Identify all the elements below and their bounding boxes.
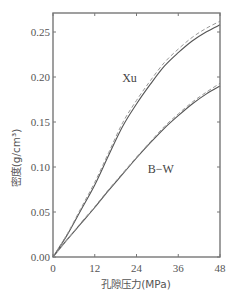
axes: 0122436480.000.050.100.150.200.25 [31,13,226,274]
dashed-curve [53,83,220,257]
y-tick-label: 0.25 [31,26,51,38]
y-tick-label: 0.10 [31,161,51,173]
dashed-curve [53,21,220,257]
y-tick-label: 0.05 [31,206,51,218]
curve-label: Xu [122,71,137,85]
x-tick-label: 24 [131,262,143,274]
plot-area [53,21,220,257]
plot-frame [53,13,220,257]
curve-label: B−W [148,162,175,176]
y-tick-label: 0.00 [31,251,51,263]
x-axis-title: 孔隙压力(MPa) [101,278,171,290]
y-tick-label: 0.20 [31,71,51,83]
y-axis-title: 密度(g/cm³) [10,129,22,188]
y-tick-label: 0.15 [31,116,51,128]
x-tick-label: 12 [89,262,100,274]
x-tick-label: 48 [215,262,227,274]
solid-curve [53,86,220,257]
x-tick-label: 0 [50,262,56,274]
x-tick-label: 36 [173,262,185,274]
density-chart: 0122436480.000.050.100.150.200.25 XuB−W … [0,0,240,301]
solid-curve [53,25,220,257]
